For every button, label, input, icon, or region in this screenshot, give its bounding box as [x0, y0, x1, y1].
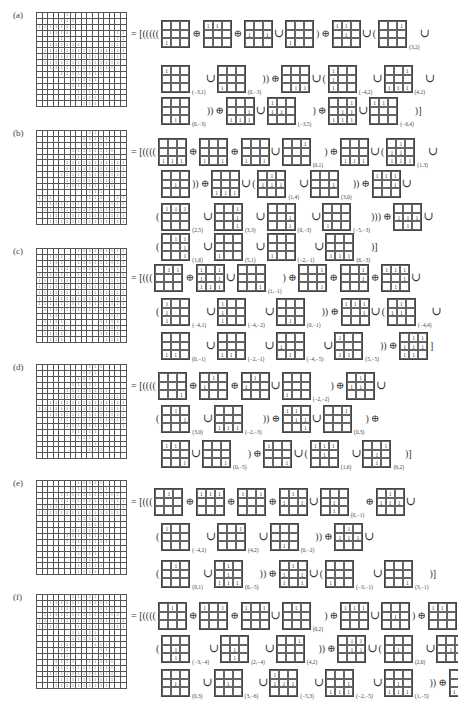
formula-text: ): [412, 610, 415, 621]
formula-text: )): [315, 531, 322, 542]
formula-row: 1))⊕111∪(1111(1,4)∪1(3,0)))⊕1111∪: [160, 170, 412, 198]
translation-subscript: (1,−5): [415, 693, 429, 699]
dilation-operator: ⊕: [327, 643, 335, 654]
formula-text: = [((((: [131, 380, 156, 391]
union-operator: ∪: [311, 71, 321, 86]
structuring-element: 1111: [161, 233, 190, 261]
structuring-element: 1: [161, 523, 190, 551]
structuring-element: 1111111: [196, 264, 225, 292]
dilation-operator: ⊕: [329, 272, 337, 283]
panel-label: (b): [13, 128, 24, 138]
formula-text: )]: [371, 241, 378, 252]
binary-image-grid: 1111111111111111111111111111111111111111…: [36, 12, 127, 107]
structuring-element: 1: [161, 560, 190, 588]
binary-image-grid: 1111111111111111111111111111111111111111…: [36, 480, 127, 575]
structuring-element: 11: [237, 488, 266, 516]
structuring-element: 1: [381, 602, 410, 630]
translation-subscript: (0,−1): [192, 356, 206, 362]
formula-text: (: [252, 178, 255, 189]
structuring-element: 1: [161, 65, 190, 93]
structuring-element: 111: [214, 405, 243, 433]
union-operator: ∪: [425, 71, 435, 86]
translation-subscript: (0,3): [192, 693, 203, 699]
formula-row: (11(−3,−4)∪11(2,−4)∪1(4,2)))⊕1111∪(1(2,0…: [155, 635, 458, 663]
formula-text: = [(((((: [131, 28, 159, 39]
formula-text: = [((((: [131, 146, 156, 157]
formula-text: ): [330, 380, 333, 391]
structuring-element: 111: [362, 440, 391, 468]
structuring-element: 11: [369, 97, 398, 125]
structuring-element: 1: [270, 523, 299, 551]
formula-text: ): [312, 105, 315, 116]
structuring-element: 1: [161, 97, 190, 125]
structuring-element: 111: [387, 298, 416, 326]
structuring-element: 1: [276, 635, 305, 663]
formula-text: )]: [430, 568, 437, 579]
translation-subscript: (−4,−2): [248, 322, 265, 328]
union-operator: ∪: [351, 446, 361, 461]
formula-text: ): [324, 610, 327, 621]
structuring-element: 1111111: [399, 332, 428, 360]
structuring-element: 1: [161, 20, 190, 48]
formula-row: (111(−4,1)∪111(−4,−2)∪1(0,−1)))⊕1111∪(11…: [155, 298, 442, 326]
translation-subscript: (1,−1): [268, 288, 282, 294]
union-operator: ∪: [259, 529, 269, 544]
structuring-element: 11: [298, 264, 327, 292]
union-operator: ∪: [367, 641, 377, 656]
structuring-element: 111: [279, 488, 308, 516]
dilation-operator: ⊕: [365, 496, 373, 507]
structuring-element: 1: [436, 635, 458, 663]
union-operator: ∪: [420, 26, 430, 41]
union-operator: ∪: [203, 209, 213, 224]
union-operator: ∪: [203, 239, 213, 254]
translation-subscript: (3,−1): [415, 584, 429, 590]
structuring-element: 11: [154, 264, 183, 292]
formula-row: = [(((((1⊕11⊕11∪1)⊕111∪(1(3,2)∪: [130, 20, 430, 48]
formula-text: ): [248, 448, 251, 459]
dilation-operator: ⊕: [389, 340, 397, 351]
union-operator: ∪: [271, 144, 281, 159]
translation-subscript: (1,6): [341, 464, 352, 470]
structuring-element: 1111: [372, 170, 401, 198]
formula-text: )): [353, 178, 360, 189]
dilation-operator: ⊕: [321, 28, 329, 39]
dilation-operator: ⊕: [271, 73, 279, 84]
formula-row: = [(((11⊕1111111∪1(1,−1))⊕11⊕11⊕11111∪: [130, 264, 421, 292]
dilation-operator: ⊕: [288, 272, 296, 283]
translation-subscript: (−4,2): [192, 547, 206, 553]
translation-subscript: (1,4): [288, 194, 299, 200]
union-operator: ∪: [241, 176, 251, 191]
structuring-element: 11: [267, 203, 296, 231]
translation-subscript: (−2,−5): [356, 693, 373, 699]
structuring-element: 111: [325, 233, 354, 261]
structuring-element: 11111: [279, 560, 308, 588]
dilation-operator: ⊕: [417, 610, 425, 621]
union-operator: ∪: [370, 144, 380, 159]
structuring-element: 111: [328, 65, 357, 93]
translation-subscript: (−2,−1): [298, 257, 315, 263]
structuring-element: 1: [322, 203, 351, 231]
translation-subscript: (−4,−5): [307, 356, 324, 362]
structuring-element: 1: [158, 602, 187, 630]
union-operator: ∪: [226, 270, 236, 285]
dilation-operator: ⊕: [189, 146, 197, 157]
structuring-element: 1: [237, 264, 266, 292]
formula-text: )]: [405, 448, 412, 459]
translation-subscript: (0,1): [192, 584, 203, 590]
translation-subscript: (0,3): [354, 429, 365, 435]
dilation-operator: ⊕: [185, 272, 193, 283]
structuring-element: 111: [161, 203, 190, 231]
structuring-element: 1111: [269, 669, 298, 697]
union-operator: ∪: [209, 641, 219, 656]
structuring-element: 11111: [282, 405, 311, 433]
structuring-element: 111: [340, 138, 369, 166]
structuring-element: 1: [161, 669, 190, 697]
structuring-element: 11: [220, 635, 249, 663]
dilation-operator: ⊕: [189, 610, 197, 621]
translation-subscript: (−3,1): [192, 89, 206, 95]
formula-text: (: [156, 211, 159, 222]
union-operator: ∪: [372, 71, 382, 86]
translation-subscript: (−4,1): [192, 322, 206, 328]
dilation-operator: ⊕: [330, 306, 338, 317]
dilation-operator: ⊕: [330, 610, 338, 621]
